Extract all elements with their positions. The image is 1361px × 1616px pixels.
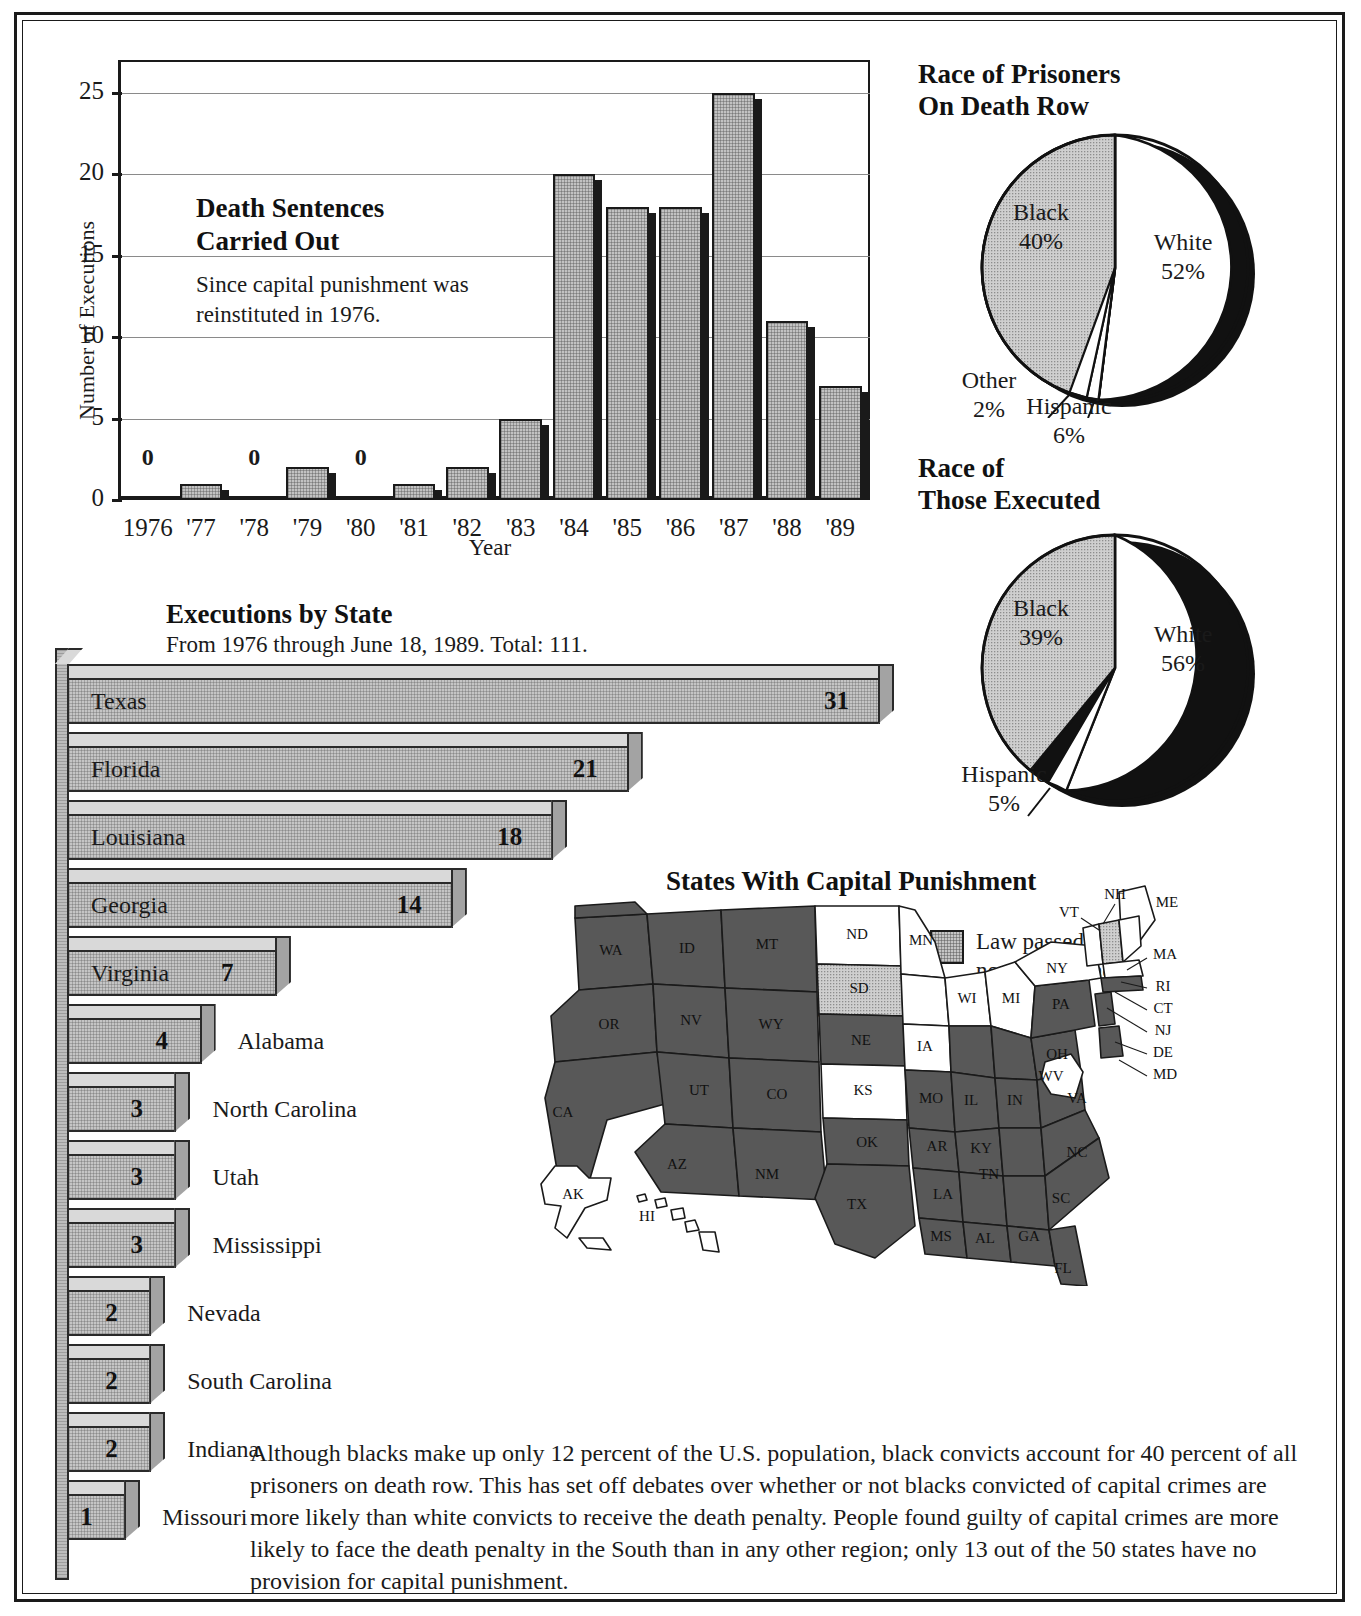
bar-'88: [766, 321, 809, 500]
state-label-MT: MT: [756, 936, 779, 952]
y-tick-mark-10: [112, 336, 122, 339]
state-label-MO: MO: [919, 1090, 943, 1106]
state-label-SD: SD: [849, 980, 868, 996]
state-bars-title: Executions by State: [166, 598, 393, 631]
state-label-HI: HI: [639, 1208, 655, 1224]
state-bar-value: 18: [497, 823, 522, 851]
y-tick-25: 25: [60, 77, 104, 105]
state-label-UT: UT: [689, 1082, 709, 1098]
state-label-PA: PA: [1052, 996, 1070, 1012]
y-tick-0: 0: [60, 484, 104, 512]
state-bar-label: Louisiana: [91, 824, 186, 851]
pie-executed-title-line1: Race of: [918, 452, 1100, 484]
bar-y-axis-title: Number of Executions: [74, 221, 100, 420]
state-label-NC: NC: [1067, 1144, 1088, 1160]
state-bar-label: North Carolina: [212, 1096, 357, 1123]
state-label-TX: TX: [847, 1196, 867, 1212]
state-bar-side: [200, 1004, 216, 1064]
state-label-FL: FL: [1054, 1260, 1072, 1276]
state-bar-side: [627, 732, 643, 792]
pie-executed-hispanic-pct: 5%: [934, 789, 1074, 818]
state-label-IN: IN: [1007, 1092, 1023, 1108]
bar-chart-title-line1: Death Sentences: [196, 192, 384, 225]
state-label-GA: GA: [1018, 1228, 1040, 1244]
state-label-ID: ID: [679, 940, 695, 956]
pie-executed-black-pct: 39%: [986, 623, 1096, 652]
state-bar-label: Virginia: [91, 960, 169, 987]
state-bar-row: [55, 664, 898, 726]
bar-'77: [180, 484, 223, 500]
state-label-AR: AR: [927, 1138, 948, 1154]
bar-chart-title-line2: Carried Out: [196, 225, 384, 258]
y-tick-mark-20: [112, 173, 122, 176]
state-label-OH: OH: [1046, 1046, 1068, 1062]
bar-'83: [499, 419, 542, 500]
pie-executed-white-name: White: [1128, 620, 1238, 649]
bar-'79: [286, 467, 329, 500]
state-label-ME: ME: [1156, 894, 1179, 910]
state-label-NM: NM: [755, 1166, 779, 1182]
state-label-RI: RI: [1156, 978, 1171, 994]
state-label-CA: CA: [553, 1104, 574, 1120]
state-bar-value: 3: [130, 1231, 143, 1259]
state-label-AZ: AZ: [667, 1156, 687, 1172]
state-label-AL: AL: [975, 1230, 995, 1246]
state-label-WY: WY: [759, 1016, 784, 1032]
state-label-WI: WI: [957, 990, 976, 1006]
state-label-MA: MA: [1153, 946, 1177, 962]
state-bar-side: [275, 936, 291, 996]
bar-'81: [393, 484, 436, 500]
state-bars-axis: [55, 648, 69, 1580]
state-bar-label: Utah: [212, 1164, 259, 1191]
state-bar-value: 7: [221, 959, 234, 987]
state-bar-face: [55, 1290, 151, 1336]
state-bar-face: [55, 678, 880, 724]
y-tick-mark-25: [112, 92, 122, 95]
state-bar-side: [124, 1480, 140, 1540]
gridline-25: [118, 93, 870, 94]
state-label-CO: CO: [767, 1086, 788, 1102]
state-bar-label: Mississippi: [212, 1232, 321, 1259]
pie-death-row-black-name: Black: [986, 198, 1096, 227]
state-label-DE: DE: [1153, 1044, 1173, 1060]
bar-'86: [659, 207, 702, 500]
state-label-CT: CT: [1153, 1000, 1172, 1016]
state-label-KS: KS: [853, 1082, 872, 1098]
bar-chart-sub-line2: reinstituted in 1976.: [196, 300, 469, 330]
pie-death-row-white-label: White 52%: [1128, 228, 1238, 286]
state-bar-label: Georgia: [91, 892, 168, 919]
state-label-VA: VA: [1067, 1090, 1087, 1106]
pie-executed-hispanic-name: Hispanic: [934, 760, 1074, 789]
state-bar-side: [174, 1072, 190, 1132]
state-bar-face: [55, 1222, 176, 1268]
us-map-svg: WA OR CA NV ID MT WY UT AZ CO NM ND SD N…: [515, 866, 1195, 1286]
bar-'84: [553, 174, 596, 500]
state-bar-value: 2: [105, 1435, 118, 1463]
state-label-MN: MN: [909, 932, 933, 948]
state-label-MI: MI: [1002, 990, 1020, 1006]
pie-executed-white-pct: 56%: [1128, 649, 1238, 678]
state-label-WV: WV: [1039, 1068, 1064, 1084]
state-bar-value: 2: [105, 1367, 118, 1395]
state-bar-value: 31: [824, 687, 849, 715]
state-label-NY: NY: [1046, 960, 1068, 976]
state-bar-face: [55, 1358, 151, 1404]
state-label-WA: WA: [599, 942, 622, 958]
state-bar-value: 4: [156, 1027, 169, 1055]
y-tick-mark-0: [112, 499, 122, 502]
state-bar-row: [55, 1072, 194, 1134]
state-label-NJ: NJ: [1155, 1022, 1172, 1038]
bar-chart-subtitle: Since capital punishment was reinstitute…: [196, 270, 469, 330]
state-label-KY: KY: [970, 1140, 992, 1156]
state-bar-value: 3: [130, 1095, 143, 1123]
pie-death-row-hispanic-label: Hispanic 6%: [1003, 392, 1135, 450]
bar-chart-title: Death Sentences Carried Out: [196, 192, 384, 258]
pie-death-row-hispanic-name: Hispanic: [1003, 392, 1135, 421]
state-label-IL: IL: [964, 1092, 978, 1108]
state-label-SC: SC: [1052, 1190, 1070, 1206]
pie-death-row-white-pct: 52%: [1128, 257, 1238, 286]
state-label-LA: LA: [933, 1186, 953, 1202]
state-label-OR: OR: [599, 1016, 620, 1032]
state-bar-side: [451, 868, 467, 928]
state-bar-label: Florida: [91, 756, 160, 783]
